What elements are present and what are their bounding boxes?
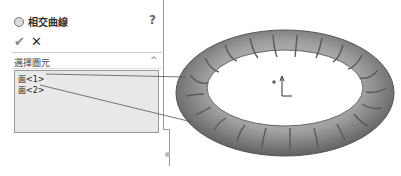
leader-lines (40, 74, 192, 122)
torus-model[interactable] (176, 30, 394, 156)
graphics-viewport[interactable] (0, 0, 401, 176)
